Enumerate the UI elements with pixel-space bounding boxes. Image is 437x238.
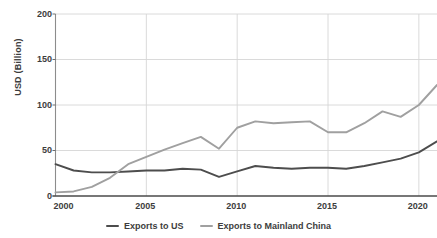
x-axis-tick-label: 2020 — [408, 202, 428, 211]
x-axis-tick-label: 2000 — [54, 202, 74, 211]
series-line-exports-to-mainland-china — [56, 85, 437, 192]
legend-swatch-icon — [200, 225, 213, 228]
legend-label: Exports to Mainland China — [218, 221, 332, 231]
legend-label: Exports to US — [124, 221, 184, 231]
x-axis-tick-label: 2010 — [226, 202, 246, 211]
legend-item-exports-to-mainland-china[interactable]: Exports to Mainland China — [200, 221, 332, 231]
series-line-exports-to-us — [56, 141, 437, 176]
x-axis-tick-label: 2005 — [135, 202, 155, 211]
legend-swatch-icon — [106, 225, 119, 228]
line-chart: USD (Billion) 050100150200 2000200520102… — [0, 0, 437, 238]
data-series — [56, 85, 437, 192]
x-axis-tick-label: 2015 — [317, 202, 337, 211]
legend-item-exports-to-us[interactable]: Exports to US — [106, 221, 184, 231]
chart-legend: Exports to USExports to Mainland China — [0, 219, 437, 233]
x-axis-tick-labels: 20002005201020152020 — [0, 199, 437, 213]
